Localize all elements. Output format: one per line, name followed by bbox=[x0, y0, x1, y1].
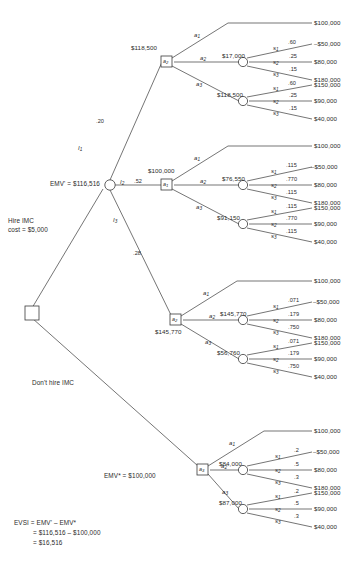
state-label-i2-a3-s1: s1 bbox=[271, 207, 277, 216]
prob-i2-a2-s2: .770 bbox=[286, 176, 297, 184]
info-branch-prob-i2: .52 bbox=[134, 178, 142, 186]
edge-i1-a1 bbox=[172, 23, 228, 58]
emv-prime-label: EMV' = $116,516 bbox=[8, 180, 100, 189]
prob-i2-a3-s1: .115 bbox=[286, 203, 297, 211]
edge-i3-a3-s1 bbox=[247, 343, 312, 355]
hire-imc-label-line1: Hire IMC bbox=[8, 217, 34, 226]
decision-node-label-i2: a1 bbox=[163, 181, 169, 189]
info-branch-label-i2: I2 bbox=[120, 178, 124, 187]
decision-node-sub-noinfo: 3 bbox=[202, 468, 204, 473]
state-sub-i3-a3-s1: 1 bbox=[276, 345, 279, 350]
action-sub-i2-a2: 2 bbox=[203, 180, 206, 185]
prob-i3-a3-s2: .179 bbox=[288, 350, 299, 358]
prob-i2-a2-s3: .115 bbox=[286, 189, 297, 197]
decision-node-label-i3: a2 bbox=[172, 316, 178, 324]
state-sub-i3-a2-s2: 2 bbox=[276, 319, 279, 324]
action-label-i1-a1: a1 bbox=[194, 31, 200, 40]
state-sub-i1-a3-s2: 2 bbox=[276, 100, 279, 105]
edge-i2-a2-s1 bbox=[247, 167, 312, 181]
edge-i1-a2-s3 bbox=[247, 66, 312, 80]
evsi-line-1: EVSI = EMV' – EMV* bbox=[14, 518, 76, 527]
decision-node-label-noinfo: a3 bbox=[199, 466, 205, 474]
state-label-i1-a3-s2: s2 bbox=[273, 97, 279, 106]
decision-node-label-i1: a2 bbox=[163, 58, 169, 66]
payoff-i1-a2-s2: $80,000 bbox=[314, 58, 337, 66]
state-sub-i2-a2-s2: 2 bbox=[274, 184, 277, 189]
state-sub-i1-a2-s1: 1 bbox=[276, 47, 279, 52]
dont-hire-imc-label: Don't hire IMC bbox=[32, 379, 74, 388]
state-sub-i3-a3-s3: 3 bbox=[276, 370, 279, 375]
state-sub-noinfo-a2-s1: 1 bbox=[278, 455, 281, 460]
edge-i3-a2-s1 bbox=[247, 302, 312, 316]
prob-i1-a2-s3: .15 bbox=[289, 66, 297, 74]
prob-i3-a2-s2: .179 bbox=[288, 311, 299, 319]
prob-noinfo-a3-s3: .3 bbox=[294, 513, 299, 521]
state-label-i3-a2-s3: s3 bbox=[273, 328, 279, 337]
action-sub-i3-a3: 3 bbox=[208, 341, 211, 346]
edge-i1-a2-s1 bbox=[247, 44, 312, 58]
state-sub-i3-a2-s3: 3 bbox=[276, 331, 279, 336]
payoff-i1-a3-s3: $40,000 bbox=[314, 115, 337, 123]
state-sub-i1-a2-s3: 3 bbox=[276, 73, 279, 78]
state-label-noinfo-a3-s2: s2 bbox=[275, 505, 281, 514]
state-label-noinfo-a2-s3: s3 bbox=[275, 478, 281, 487]
payoff-i3-a3-s2: $90,000 bbox=[314, 355, 337, 363]
state-label-i1-a2-s2: s2 bbox=[273, 58, 279, 67]
action-label-i3-a1: a1 bbox=[203, 289, 209, 298]
action-sub-i1-a2: 2 bbox=[203, 57, 206, 62]
evsi-line-2: = $116,516 – $100,000 bbox=[33, 528, 101, 537]
state-label-noinfo-a2-s2: s2 bbox=[275, 466, 281, 475]
payoff-i3-a3-s1: $150,000 bbox=[314, 339, 341, 347]
state-sub-noinfo-a3-s1: 1 bbox=[278, 495, 281, 500]
payoff-noinfo-a2-s2: $80,000 bbox=[314, 466, 337, 474]
state-sub-i2-a2-s1: 1 bbox=[274, 170, 277, 175]
state-label-i2-a2-s3: s3 bbox=[271, 193, 277, 202]
state-label-noinfo-a3-s3: s3 bbox=[275, 517, 281, 526]
action-label-noinfo-a1: a1 bbox=[229, 439, 235, 448]
chance-ev-i2-a3: $91,150 bbox=[217, 214, 240, 222]
state-label-i3-a3-s2: s2 bbox=[273, 355, 279, 364]
action-label-noinfo-a3: a3 bbox=[222, 488, 228, 497]
payoff-i3-a1: $100,000 bbox=[314, 277, 341, 285]
action-sub-i2-a1: 1 bbox=[197, 157, 200, 162]
state-label-i2-a2-s2: s2 bbox=[271, 181, 277, 190]
state-label-i1-a2-s1: s1 bbox=[273, 44, 279, 53]
edge-i1-a3-s3 bbox=[247, 105, 312, 119]
action-label-i2-a2: a2 bbox=[200, 177, 206, 186]
decision-value-i3: $145,770 bbox=[155, 328, 182, 336]
tree-canvas bbox=[0, 0, 359, 565]
payoff-i1-a2-s1: –$50,000 bbox=[314, 40, 341, 48]
prob-noinfo-a2-s2: .5 bbox=[294, 461, 299, 469]
state-sub-noinfo-a2-s3: 3 bbox=[278, 481, 281, 486]
info-branch-label-i3: I3 bbox=[113, 216, 117, 225]
state-sub-noinfo-a3-s3: 3 bbox=[278, 520, 281, 525]
state-sub-noinfo-a2-s2: 2 bbox=[278, 469, 281, 474]
action-sub-i2-a3: 3 bbox=[199, 206, 202, 211]
state-sub-i1-a2-s2: 2 bbox=[276, 61, 279, 66]
chance-ev-i2-a2: $76,550 bbox=[222, 175, 245, 183]
root-decision-node[interactable] bbox=[25, 306, 39, 320]
edge-i1-a3-s1 bbox=[247, 85, 312, 97]
decision-value-i1: $118,500 bbox=[131, 44, 157, 52]
prob-noinfo-a2-s3: .3 bbox=[294, 474, 299, 482]
edge-i3-a3-s3 bbox=[247, 363, 312, 377]
prob-i2-a2-s1: .115 bbox=[286, 162, 297, 170]
payoff-i1-a3-s1: $150,000 bbox=[314, 81, 341, 89]
prob-noinfo-a3-s1: .2 bbox=[294, 488, 299, 496]
edge-i2-a3-s1 bbox=[247, 208, 312, 220]
state-sub-i3-a3-s2: 2 bbox=[276, 358, 279, 363]
payoff-i2-a3-s2: $90,000 bbox=[314, 220, 337, 228]
state-label-i3-a3-s3: s3 bbox=[273, 367, 279, 376]
payoff-i3-a2-s1: –$50,000 bbox=[313, 298, 340, 306]
payoff-noinfo-a2-s1: –$50,000 bbox=[313, 448, 340, 456]
state-sub-i2-a3-s1: 1 bbox=[274, 210, 277, 215]
state-label-noinfo-a3-s1: s1 bbox=[275, 492, 281, 501]
hire-imc-label-line2: cost = $5,000 bbox=[8, 226, 48, 235]
prob-i3-a2-s3: .750 bbox=[288, 324, 299, 332]
state-label-i3-a3-s1: s1 bbox=[273, 342, 279, 351]
decision-tree-diagram: EMV' = $116,516 Hire IMC cost = $5,000 D… bbox=[0, 0, 359, 565]
prob-noinfo-a3-s2: .5 bbox=[294, 500, 299, 508]
info-chance-node[interactable] bbox=[105, 180, 115, 190]
edge-i2-a3-s3 bbox=[247, 228, 312, 242]
payoff-noinfo-a3-s2: $90,000 bbox=[314, 505, 337, 513]
